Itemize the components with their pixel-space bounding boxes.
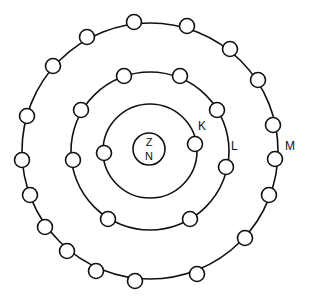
electron-icon	[219, 160, 234, 175]
electron-icon	[97, 146, 112, 161]
electron-icon	[20, 109, 35, 124]
shell-label-l: L	[231, 140, 238, 152]
electron-icon	[66, 153, 81, 168]
shell-label-k: K	[198, 120, 206, 132]
electron-icon	[46, 59, 61, 74]
electron-icon	[251, 73, 266, 88]
electron-icon	[15, 153, 30, 168]
electron-icon	[128, 274, 143, 289]
electron-icon	[190, 267, 205, 282]
electron-icon	[60, 244, 75, 259]
electron-icon	[89, 264, 104, 279]
atom-diagram	[0, 0, 309, 303]
electron-icon	[268, 152, 283, 167]
electron-icon	[180, 19, 195, 34]
nucleus-label-z: Z	[146, 137, 153, 148]
shell-label-m: M	[285, 140, 295, 152]
electron-icon	[183, 212, 198, 227]
electron-icon	[262, 188, 277, 203]
electron-icon	[210, 103, 225, 118]
electron-icon	[173, 69, 188, 84]
electron-icon	[38, 220, 53, 235]
electron-icon	[80, 30, 95, 45]
electron-icon	[266, 118, 281, 133]
nucleus-label-n: N	[145, 151, 153, 162]
electron-icon	[101, 212, 116, 227]
electron-icon	[238, 231, 253, 246]
electron-icon	[188, 137, 203, 152]
electron-icon	[74, 103, 89, 118]
electron-icon	[127, 15, 142, 30]
electron-icon	[23, 188, 38, 203]
electron-icon	[223, 42, 238, 57]
electron-icon	[117, 69, 132, 84]
